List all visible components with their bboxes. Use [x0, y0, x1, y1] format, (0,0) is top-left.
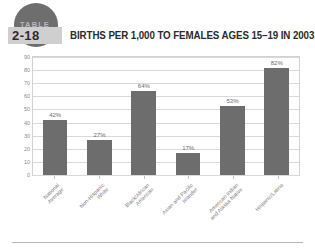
x-axis-tick: [278, 176, 279, 179]
bar-series: 42%27%64%17%53%82%: [33, 57, 299, 175]
bar-value-label: 53%: [226, 98, 238, 105]
y-axis-tick: 90: [24, 54, 30, 60]
x-axis-tick: [233, 176, 234, 179]
x-axis-tick: [144, 176, 145, 179]
figure-header: TABLE 2-18 BIRTHS PER 1,000 TO FEMALES A…: [0, 0, 315, 50]
chart-title: BIRTHS PER 1,000 TO FEMALES AGES 15–19 I…: [70, 29, 314, 41]
bar: [43, 120, 68, 175]
bar: [220, 106, 245, 175]
plot-area: 42%27%64%17%53%82%: [32, 56, 300, 176]
bar-value-label: 82%: [271, 60, 283, 67]
bar-group: 64%: [125, 57, 164, 175]
figure-root: TABLE 2-18 BIRTHS PER 1,000 TO FEMALES A…: [0, 0, 315, 252]
x-axis-label: American Indianand Alaska Native: [202, 182, 243, 223]
y-axis: 9080706050403020100: [14, 56, 30, 176]
bar-value-label: 42%: [49, 112, 61, 119]
chart-container: 9080706050403020100 42%27%64%17%53%82% N…: [0, 52, 315, 230]
bar-group: 82%: [258, 57, 297, 175]
x-axis-label: Non-HispanicWhite: [68, 182, 109, 223]
bar-value-label: 17%: [182, 145, 194, 152]
x-axis-tick: [54, 176, 55, 179]
table-badge-number: 2-18: [12, 29, 40, 43]
bar: [131, 91, 156, 175]
y-axis-tick: 70: [24, 80, 30, 86]
y-axis-tick: 20: [24, 146, 30, 152]
y-axis-tick: 60: [24, 93, 30, 99]
bar: [264, 68, 289, 176]
bar-group: 53%: [213, 57, 252, 175]
y-axis-tick: 80: [24, 67, 30, 73]
x-axis-tick: [99, 176, 100, 179]
y-axis-tick: 50: [24, 106, 30, 112]
y-axis-tick: 10: [24, 159, 30, 165]
bar-group: 42%: [36, 57, 75, 175]
x-axis-label: Asian and PacificIslander: [158, 182, 199, 223]
x-axis-tick: [188, 176, 189, 179]
x-axis-label: Hispanic/Latino: [247, 182, 284, 219]
bar-group: 17%: [169, 57, 208, 175]
y-axis-tick: 0: [27, 172, 30, 178]
y-axis-tick: 30: [24, 133, 30, 139]
bar-value-label: 64%: [138, 83, 150, 90]
bar: [176, 153, 201, 175]
x-axis-label: NationalAverage: [24, 182, 65, 223]
bar: [87, 140, 112, 175]
x-axis-label: Black/AfricanAmerican: [113, 182, 154, 223]
y-axis-tick: 40: [24, 120, 30, 126]
footer-rule: [12, 242, 303, 243]
bar-value-label: 27%: [93, 132, 105, 139]
x-axis-labels: NationalAverageNon-HispanicWhiteBlack/Af…: [32, 180, 300, 230]
bar-group: 27%: [80, 57, 119, 175]
